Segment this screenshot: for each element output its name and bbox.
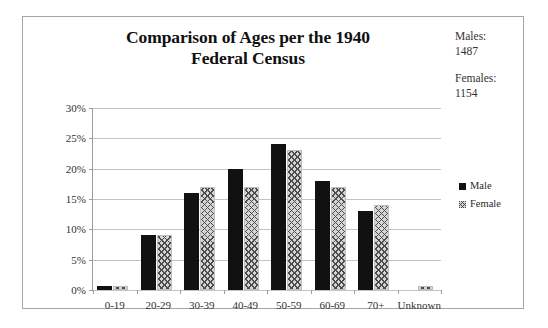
x-axis-tick-mark (354, 290, 355, 294)
legend-item-male: Male (459, 177, 525, 195)
bar-female (418, 286, 433, 290)
bar-male (141, 235, 156, 290)
bar-female (331, 187, 346, 290)
bar-group (93, 108, 137, 290)
bar-group (137, 108, 181, 290)
legend-item-female-label: Female (470, 195, 501, 213)
bar-male (184, 193, 199, 290)
bar-male (271, 144, 286, 290)
plot-wrapper: 0%5%10%15%20%25%30% 0-1920-2930-3940-495… (53, 87, 448, 327)
x-axis-tick-mark (398, 290, 399, 294)
x-axis-tick-label: Unknown (389, 299, 449, 311)
bar-female (287, 150, 302, 290)
y-axis-tick-label: 20% (48, 163, 86, 175)
chart-frame: Comparison of Ages per the 1940 Federal … (22, 16, 524, 309)
bar-group (267, 108, 311, 290)
bar-female (157, 235, 172, 290)
bar-male (97, 286, 112, 290)
x-axis-tick-mark (267, 290, 268, 294)
y-axis-tick-label: 15% (48, 193, 86, 205)
bar-male (228, 169, 243, 290)
bar-female (374, 205, 389, 290)
legend-item-female: Female (459, 195, 525, 213)
males-stat-value: 1487 (455, 44, 525, 59)
chart-title: Comparison of Ages per the 1940 Federal … (53, 27, 443, 69)
solid-black-square-icon (459, 183, 466, 190)
y-axis-tick-label: 5% (48, 254, 86, 266)
males-stat-label: Males: (455, 29, 525, 44)
y-axis-tick-label: 25% (48, 132, 86, 144)
plot-area: 0%5%10%15%20%25%30% 0-1920-2930-3940-495… (92, 108, 441, 291)
bar-male (358, 211, 373, 290)
males-stat: Males: 1487 (455, 29, 525, 59)
side-stats-panel: Males: 1487 Females: 1154 (455, 29, 525, 113)
bar-group (180, 108, 224, 290)
x-axis-tick-mark (311, 290, 312, 294)
bar-male (315, 181, 330, 290)
y-axis-tick-label: 10% (48, 223, 86, 235)
bar-group (398, 108, 442, 290)
legend-item-male-label: Male (470, 177, 492, 195)
chart-title-line-2: Federal Census (191, 48, 305, 68)
x-axis-tick-mark (441, 290, 442, 294)
y-axis-tick-label: 0% (48, 284, 86, 296)
x-axis-tick-mark (224, 290, 225, 294)
bars-layer (93, 108, 441, 290)
bar-group (311, 108, 355, 290)
x-axis-tick-mark (180, 290, 181, 294)
females-stat-label: Females: (455, 71, 525, 86)
chart-legend: Male Female (459, 177, 525, 213)
y-axis-tick-label: 30% (48, 102, 86, 114)
crosshatch-square-icon (459, 201, 466, 208)
bar-female (113, 286, 128, 290)
bar-group (224, 108, 268, 290)
females-stat-value: 1154 (455, 86, 525, 101)
females-stat: Females: 1154 (455, 71, 525, 101)
chart-title-line-1: Comparison of Ages per the 1940 (126, 27, 370, 47)
bar-female (244, 187, 259, 290)
bar-female (200, 187, 215, 290)
bar-group (354, 108, 398, 290)
x-axis-tick-mark (93, 290, 94, 294)
x-axis-tick-mark (137, 290, 138, 294)
